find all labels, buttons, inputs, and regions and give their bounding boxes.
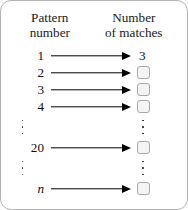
ellipsis-dot xyxy=(22,167,24,169)
ellipsis-row xyxy=(1,156,188,180)
column-header-pattern-number: Pattern number xyxy=(15,10,85,40)
pattern-number-label: n xyxy=(1,182,47,195)
arrow-head xyxy=(122,69,131,77)
pattern-number-label: 1 xyxy=(1,49,47,62)
ellipsis-dot xyxy=(142,126,144,128)
ellipsis-dot xyxy=(22,174,24,176)
mapping-diagram-card: Pattern number Number of matches 1323420… xyxy=(0,0,188,210)
vertical-ellipsis-icon xyxy=(133,158,185,177)
number-of-matches-cell xyxy=(133,180,185,197)
arrow-shaft xyxy=(51,147,122,148)
answer-input-box[interactable] xyxy=(137,182,150,195)
arrow-head xyxy=(122,52,131,60)
arrow-shaft xyxy=(51,55,122,56)
pattern-number-label: 20 xyxy=(1,141,47,154)
arrow-head xyxy=(122,144,131,152)
answer-value: 3 xyxy=(136,49,146,62)
ellipsis-row xyxy=(1,115,188,139)
column-header-pattern-number-line2: number xyxy=(15,25,85,40)
right-arrow-icon xyxy=(47,64,133,81)
arrow-head xyxy=(122,103,131,111)
answer-input-box[interactable] xyxy=(137,83,150,96)
ellipsis-dot xyxy=(142,167,144,169)
right-arrow-icon xyxy=(47,180,133,197)
pattern-number-label: 4 xyxy=(1,100,47,113)
vertical-ellipsis-icon xyxy=(133,117,185,136)
mapping-row: 4 xyxy=(1,98,188,115)
mapping-rows: 1323420n xyxy=(1,47,188,197)
arrow-head xyxy=(122,86,131,94)
pattern-number-label: 2 xyxy=(1,66,47,79)
ellipsis-dot xyxy=(22,126,24,128)
number-of-matches-cell xyxy=(133,139,185,156)
mapping-row: 3 xyxy=(1,81,188,98)
ellipsis-dot xyxy=(142,174,144,176)
ellipsis-dot xyxy=(142,161,144,163)
arrow-shaft xyxy=(51,72,122,73)
right-arrow-icon xyxy=(47,98,133,115)
mapping-row: 20 xyxy=(1,139,188,156)
mapping-row: n xyxy=(1,180,188,197)
arrow-head xyxy=(122,185,131,193)
column-header-number-of-matches-line2: of matches xyxy=(91,25,177,40)
mapping-row: 2 xyxy=(1,64,188,81)
column-header-pattern-number-line1: Pattern xyxy=(15,10,85,25)
number-of-matches-cell xyxy=(133,98,185,115)
right-arrow-icon xyxy=(47,47,133,64)
number-of-matches-cell xyxy=(133,64,185,81)
arrow-shaft xyxy=(51,89,122,90)
number-of-matches-cell xyxy=(133,81,185,98)
vertical-ellipsis-icon xyxy=(1,117,47,136)
arrow-shaft xyxy=(51,106,122,107)
answer-input-box[interactable] xyxy=(137,66,150,79)
right-arrow-icon xyxy=(47,81,133,98)
ellipsis-dot xyxy=(142,120,144,122)
ellipsis-dot xyxy=(22,133,24,135)
ellipsis-dot xyxy=(22,161,24,163)
right-arrow-icon xyxy=(47,139,133,156)
column-headers: Pattern number Number of matches xyxy=(1,1,187,40)
ellipsis-dot xyxy=(22,120,24,122)
mapping-row: 13 xyxy=(1,47,188,64)
pattern-number-label: 3 xyxy=(1,83,47,96)
number-of-matches-cell: 3 xyxy=(133,47,185,64)
answer-input-box[interactable] xyxy=(137,141,150,154)
answer-input-box[interactable] xyxy=(137,100,150,113)
column-header-number-of-matches: Number of matches xyxy=(91,10,177,40)
ellipsis-dot xyxy=(142,133,144,135)
vertical-ellipsis-icon xyxy=(1,158,47,177)
column-header-number-of-matches-line1: Number xyxy=(91,10,177,25)
arrow-shaft xyxy=(51,188,122,189)
